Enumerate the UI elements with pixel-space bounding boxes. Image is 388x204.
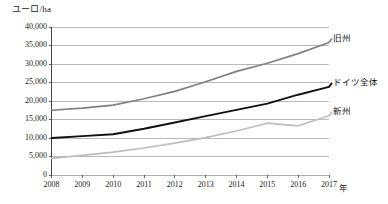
y-tick-label: 10,000 bbox=[25, 134, 47, 142]
x-tick-label: 2016 bbox=[283, 181, 313, 189]
y-tick-label: 20,000 bbox=[25, 97, 47, 105]
x-tick-label: 2011 bbox=[129, 181, 159, 189]
series-leader-2 bbox=[329, 112, 332, 116]
series-line-2 bbox=[52, 116, 330, 159]
gridlines bbox=[52, 27, 330, 175]
y-tick-label: 5,000 bbox=[29, 152, 47, 160]
series-label-1: ドイツ全体 bbox=[333, 78, 378, 87]
x-tick-label: 2015 bbox=[252, 181, 282, 189]
x-tick-label: 2013 bbox=[191, 181, 221, 189]
plot-area bbox=[0, 0, 388, 204]
series-label-2: 新州 bbox=[333, 107, 351, 116]
y-tick-label: 25,000 bbox=[25, 78, 47, 86]
x-tick-label: 2008 bbox=[37, 181, 67, 189]
series-leader-1 bbox=[329, 83, 332, 87]
line-chart: ユーロ/ha 05,00010,00015,00020,00025,00030,… bbox=[0, 0, 388, 204]
series-line-1 bbox=[52, 87, 330, 138]
x-axis-ticks bbox=[52, 175, 330, 178]
series-leader-0 bbox=[329, 39, 332, 43]
y-tick-label: 35,000 bbox=[25, 41, 47, 49]
y-tick-label: 15,000 bbox=[25, 115, 47, 123]
series-label-0: 旧州 bbox=[333, 34, 351, 43]
y-tick-label: 30,000 bbox=[25, 60, 47, 68]
x-tick-label: 2012 bbox=[160, 181, 190, 189]
x-tick-label: 2009 bbox=[67, 181, 97, 189]
series-line-0 bbox=[52, 43, 330, 111]
y-tick-label: 0 bbox=[43, 171, 47, 179]
x-tick-label: 2010 bbox=[98, 181, 128, 189]
x-axis-title: 年 bbox=[339, 181, 348, 193]
x-tick-label: 2014 bbox=[222, 181, 252, 189]
y-tick-label: 40,000 bbox=[25, 23, 47, 31]
